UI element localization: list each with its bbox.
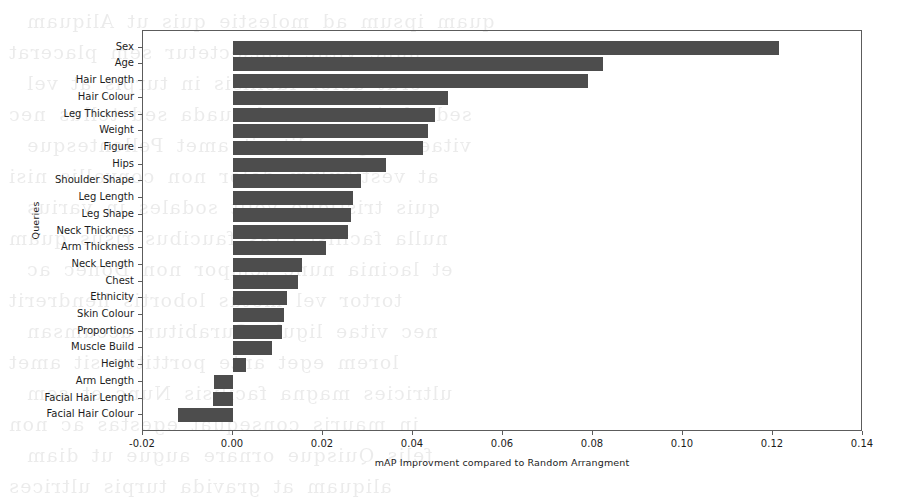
y-axis-tick-label: Weight xyxy=(99,125,134,135)
bar xyxy=(178,408,233,422)
bar xyxy=(233,341,272,355)
y-axis-tick-mark xyxy=(138,247,143,248)
x-axis-tick-mark xyxy=(682,431,683,435)
bar xyxy=(233,174,361,188)
y-axis-tick-label: Facial Hair Length xyxy=(44,393,134,403)
y-axis-tick-mark xyxy=(138,130,143,131)
y-axis-tick-label: Muscle Build xyxy=(71,342,134,352)
bar xyxy=(233,74,588,88)
y-axis-tick-mark xyxy=(138,314,143,315)
y-axis-tick-label: Proportions xyxy=(77,326,134,336)
y-axis-tick-mark xyxy=(138,164,143,165)
x-axis-tick-label: 0.00 xyxy=(221,438,243,449)
bar xyxy=(233,308,284,322)
y-axis-tick-mark xyxy=(138,97,143,98)
y-axis-tick-mark xyxy=(138,398,143,399)
y-axis-tick-label: Hips xyxy=(112,159,134,169)
y-axis-tick-label: Neck Thickness xyxy=(56,226,134,236)
y-axis-tick-label: Chest xyxy=(105,276,134,286)
y-axis-tick-label: Shoulder Shape xyxy=(55,175,134,185)
y-axis-tick-mark xyxy=(138,364,143,365)
y-axis-tick-mark xyxy=(138,197,143,198)
bar xyxy=(214,375,233,389)
y-axis-tick-label: Figure xyxy=(103,142,134,152)
x-axis-title: mAP Improvment compared to Random Arrang… xyxy=(142,457,862,468)
bar xyxy=(233,325,282,339)
x-axis-tick-label: -0.02 xyxy=(129,438,155,449)
x-axis-tick-label: 0.08 xyxy=(581,438,603,449)
bar xyxy=(233,191,353,205)
bar xyxy=(233,275,298,289)
x-axis-tick-label: 0.02 xyxy=(311,438,333,449)
y-axis-tick-mark xyxy=(138,214,143,215)
x-axis-tick-label: 0.06 xyxy=(491,438,513,449)
y-axis-tick-label: Neck Length xyxy=(71,259,134,269)
y-axis-tick-label: Facial Hair Colour xyxy=(47,409,135,419)
x-axis-tick-mark xyxy=(862,431,863,435)
y-axis-tick-label: Leg Shape xyxy=(82,209,134,219)
x-axis-tick-mark xyxy=(592,431,593,435)
x-axis-tick-label: 0.12 xyxy=(761,438,783,449)
y-axis-tick-label: Height xyxy=(101,359,134,369)
bar xyxy=(233,124,428,138)
bar xyxy=(233,141,423,155)
x-axis-tick-label: 0.10 xyxy=(671,438,693,449)
y-axis-tick-mark xyxy=(138,381,143,382)
y-axis-tick-labels: SexAgeHair LengthHair ColourLeg Thicknes… xyxy=(0,30,134,431)
bar xyxy=(213,392,233,406)
y-axis-tick-mark xyxy=(138,147,143,148)
y-axis-tick-mark xyxy=(138,347,143,348)
y-axis-tick-label: Leg Length xyxy=(78,192,134,202)
y-axis-tick-label: Arm Length xyxy=(76,376,134,386)
y-axis-tick-mark xyxy=(138,80,143,81)
x-axis-tick-mark xyxy=(412,431,413,435)
y-axis-tick-label: Hair Length xyxy=(76,75,134,85)
bars-layer xyxy=(143,31,861,430)
y-axis-tick-mark xyxy=(138,47,143,48)
bar xyxy=(233,241,326,255)
bar xyxy=(233,91,448,105)
y-axis-tick-label: Sex xyxy=(116,42,134,52)
bar xyxy=(233,158,386,172)
bar xyxy=(233,108,435,122)
bar xyxy=(233,57,603,71)
y-axis-tick-mark xyxy=(138,264,143,265)
bar xyxy=(233,358,246,372)
y-axis-tick-label: Arm Thickness xyxy=(61,242,134,252)
y-axis-tick-mark xyxy=(138,63,143,64)
y-axis-tick-label: Hair Colour xyxy=(78,92,134,102)
y-axis-tick-mark xyxy=(138,297,143,298)
y-axis-tick-label: Skin Colour xyxy=(77,309,134,319)
x-axis-tick-mark xyxy=(502,431,503,435)
y-axis-tick-mark xyxy=(138,331,143,332)
plot-area xyxy=(142,30,862,431)
y-axis-tick-label: Ethnicity xyxy=(90,292,134,302)
x-axis-tick-label: 0.14 xyxy=(851,438,873,449)
bar xyxy=(233,291,287,305)
y-axis-tick-mark xyxy=(138,231,143,232)
y-axis-tick-mark xyxy=(138,281,143,282)
y-axis-tick-mark xyxy=(138,114,143,115)
x-axis-tick-mark xyxy=(772,431,773,435)
x-axis-tick-mark xyxy=(142,431,143,435)
y-axis-tick-mark xyxy=(138,180,143,181)
x-axis-tick-mark xyxy=(322,431,323,435)
bar xyxy=(233,258,302,272)
x-axis-tick-label: 0.04 xyxy=(401,438,423,449)
y-axis-tick-mark xyxy=(138,414,143,415)
bar xyxy=(233,41,779,55)
y-axis-tick-label: Age xyxy=(115,58,134,68)
bar xyxy=(233,225,348,239)
x-axis-tick-mark xyxy=(232,431,233,435)
y-axis-tick-label: Leg Thickness xyxy=(64,109,135,119)
bar xyxy=(233,208,351,222)
